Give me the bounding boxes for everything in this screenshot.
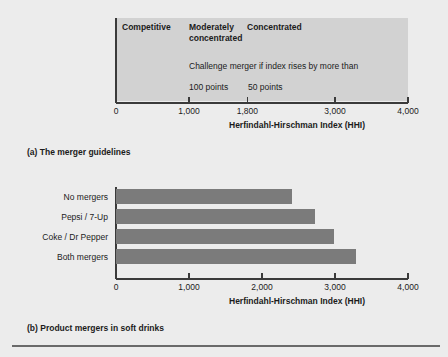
panel-a-axis-title: Herfindahl-Hirschman Index (HHI)	[229, 120, 365, 130]
panel-a-tick-3000	[334, 97, 336, 103]
panel-b-tick-2000	[261, 273, 263, 279]
threshold-50-points: 50 points	[248, 82, 283, 92]
bar-pepsi-7up	[116, 209, 315, 224]
panel-b-plot-area	[116, 187, 408, 278]
bar-no-mergers	[116, 189, 292, 204]
panel-a-vertical-axis	[115, 18, 117, 103]
zone-label-moderately-concentrated: Moderately concentrated	[189, 22, 242, 43]
zone-label-competitive: Competitive	[122, 22, 171, 33]
panel-b-tick-3000	[334, 273, 336, 279]
panel-a-tick-0	[115, 97, 117, 103]
threshold-100-points: 100 points	[189, 82, 228, 92]
panel-b-ticklabel-4000: 4,000	[397, 282, 418, 292]
panel-merger-guidelines: Competitive Moderately concentrated Conc…	[0, 0, 448, 168]
panel-a-ticklabel-3000: 3,000	[324, 106, 345, 116]
panel-a-ticklabel-1800: 1,800	[237, 106, 258, 116]
panel-a-horizontal-axis	[116, 102, 408, 104]
panel-a-ticklabel-0: 0	[114, 106, 119, 116]
challenge-merger-note: Challenge merger if index rises by more …	[189, 61, 358, 71]
category-label-both-mergers: Both mergers	[57, 252, 108, 262]
bar-both-mergers	[116, 249, 356, 264]
figure-page: Competitive Moderately concentrated Conc…	[0, 0, 448, 357]
panel-b-ticklabel-1000: 1,000	[178, 282, 199, 292]
category-label-no-mergers: No mergers	[64, 192, 108, 202]
panel-soft-drink-mergers: No mergers Pepsi / 7-Up Coke / Dr Pepper…	[0, 168, 448, 348]
panel-b-tick-4000	[407, 273, 409, 279]
zone-label-concentrated: Concentrated	[247, 22, 302, 33]
bottom-divider	[12, 345, 440, 347]
panel-b-tick-0	[115, 273, 117, 279]
panel-a-tick-4000	[407, 97, 409, 103]
panel-b-axis-title: Herfindahl-Hirschman Index (HHI)	[229, 296, 365, 306]
category-label-coke-dr-pepper: Coke / Dr Pepper	[42, 232, 108, 242]
bar-coke-dr-pepper	[116, 229, 334, 244]
panel-a-ticklabel-1000: 1,000	[178, 106, 199, 116]
panel-b-ticklabel-0: 0	[114, 282, 119, 292]
panel-b-tick-1000	[188, 273, 190, 279]
panel-a-caption: (a) The merger guidelines	[27, 147, 130, 157]
panel-b-ticklabel-2000: 2,000	[251, 282, 272, 292]
category-label-pepsi-7up: Pepsi / 7-Up	[61, 212, 108, 222]
panel-a-tick-1800	[247, 97, 249, 103]
panel-b-ticklabel-3000: 3,000	[324, 282, 345, 292]
panel-b-caption: (b) Product mergers in soft drinks	[27, 323, 164, 333]
panel-a-tick-1000	[188, 97, 190, 103]
panel-a-ticklabel-4000: 4,000	[397, 106, 418, 116]
